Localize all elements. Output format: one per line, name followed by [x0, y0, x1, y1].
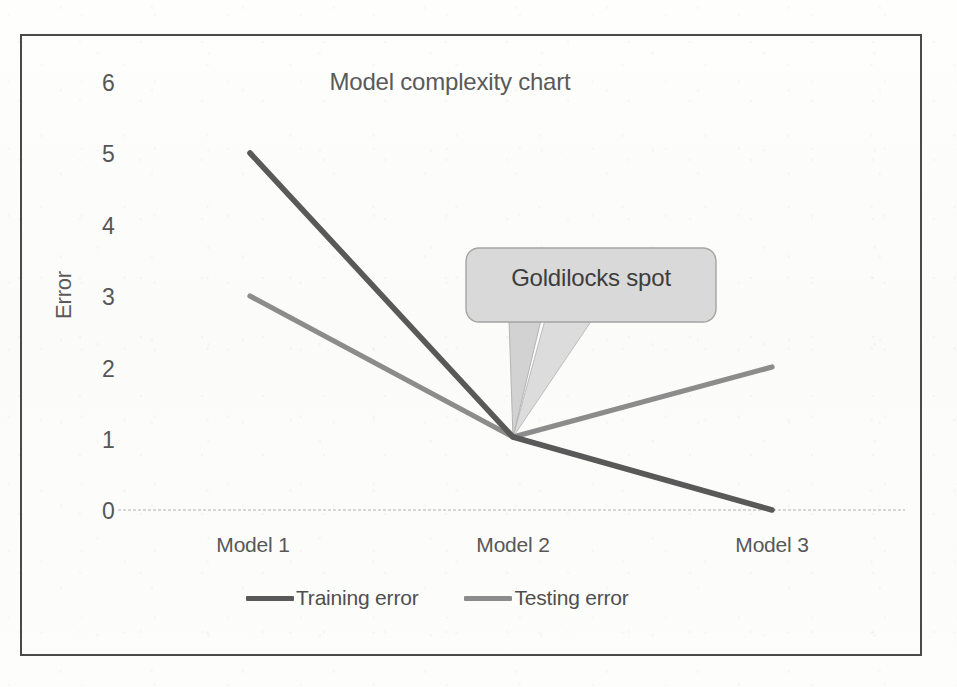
y-tick-label-3: 3: [75, 284, 115, 311]
legend-swatch-testing-error: [464, 596, 512, 601]
legend-label-testing-error: Testing error: [514, 586, 628, 610]
y-axis-title: Error: [51, 225, 77, 365]
legend-item-testing-error: Testing error: [464, 586, 628, 610]
y-tick-label-6: 6: [75, 70, 115, 97]
x-category-label-model-1: Model 1: [163, 533, 343, 557]
y-tick-label-2: 2: [75, 356, 115, 383]
y-tick-label-5: 5: [75, 141, 115, 168]
y-tick-label-4: 4: [75, 213, 115, 240]
legend-swatch-training-error: [246, 596, 294, 601]
legend-item-training-error: Training error: [246, 586, 418, 610]
y-tick-label-0: 0: [75, 498, 115, 525]
x-category-label-model-3: Model 3: [682, 533, 862, 557]
y-tick-label-1: 1: [75, 427, 115, 454]
chart-plot-area: [0, 0, 957, 687]
legend-label-training-error: Training error: [296, 586, 418, 610]
callout-text: Goldilocks spot: [467, 264, 715, 292]
chart-title: Model complexity chart: [270, 68, 630, 96]
x-category-label-model-2: Model 2: [423, 533, 603, 557]
chart-legend: Training error Testing error: [246, 586, 629, 610]
